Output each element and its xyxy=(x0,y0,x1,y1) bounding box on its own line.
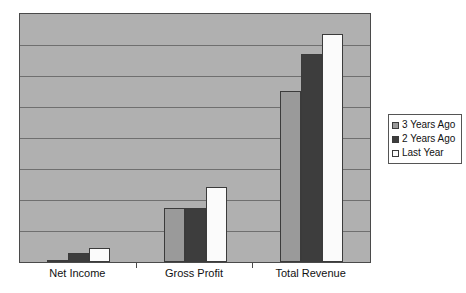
bar xyxy=(322,34,343,262)
legend-swatch-2-years-ago xyxy=(392,136,399,143)
x-axis-label-1: Gross Profit xyxy=(136,267,253,279)
bar xyxy=(301,54,322,262)
plot-area xyxy=(19,13,371,263)
bar xyxy=(89,248,110,262)
legend-label-last-year: Last Year xyxy=(402,148,444,158)
bar xyxy=(47,260,68,262)
bar xyxy=(68,253,89,262)
legend-swatch-last-year xyxy=(392,150,399,157)
legend-item-1[interactable]: 2 Years Ago xyxy=(392,132,458,146)
chart-legend: 3 Years Ago 2 Years Ago Last Year xyxy=(388,114,462,164)
gridline-6 xyxy=(20,45,370,46)
legend-item-0[interactable]: 3 Years Ago xyxy=(392,118,458,132)
bar xyxy=(185,208,206,262)
bar-chart: Net IncomeGross ProfitTotal Revenue 3 Ye… xyxy=(0,0,466,293)
legend-item-2[interactable]: Last Year xyxy=(392,146,458,160)
x-axis-label-0: Net Income xyxy=(19,267,136,279)
bar xyxy=(280,91,301,262)
legend-swatch-3-years-ago xyxy=(392,122,399,129)
x-axis-label-2: Total Revenue xyxy=(252,267,369,279)
bar xyxy=(164,208,185,262)
legend-label-3-years-ago: 3 Years Ago xyxy=(402,120,455,130)
bar xyxy=(206,187,227,262)
legend-label-2-years-ago: 2 Years Ago xyxy=(402,134,455,144)
